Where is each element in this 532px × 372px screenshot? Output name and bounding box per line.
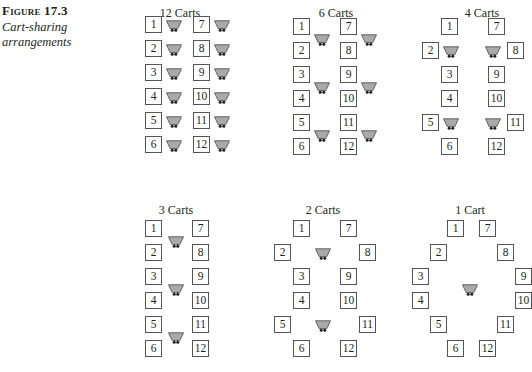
cart-icon [168, 282, 184, 294]
station-box: 12 [488, 138, 505, 155]
station-box: 4 [293, 292, 310, 309]
station-box: 6 [293, 340, 310, 357]
cart-icon [166, 90, 182, 102]
station-box: 5 [274, 316, 291, 333]
station-box: 7 [340, 18, 357, 35]
station-box: 10 [340, 90, 357, 107]
station-box: 4 [412, 292, 429, 309]
cart-icon [361, 128, 377, 140]
station-box: 6 [145, 340, 162, 357]
station-box: 12 [479, 340, 496, 357]
station-box: 11 [193, 112, 210, 129]
station-box: 6 [145, 136, 162, 153]
station-box: 5 [293, 114, 310, 131]
station-box: 8 [192, 244, 209, 261]
station-box: 9 [515, 268, 532, 285]
station-box: 11 [507, 114, 524, 131]
station-box: 9 [193, 64, 210, 81]
station-box: 11 [497, 316, 514, 333]
cart-icon [214, 114, 230, 126]
figure-caption: Cart-sharing arrangements [2, 20, 92, 50]
station-box: 1 [293, 220, 310, 237]
station-box: 5 [145, 112, 162, 129]
station-box: 6 [293, 138, 310, 155]
station-box: 3 [293, 268, 310, 285]
cart-icon [314, 80, 330, 92]
station-box: 10 [488, 90, 505, 107]
cart-icon [314, 32, 330, 44]
station-box: 6 [447, 340, 464, 357]
station-box: 10 [193, 88, 210, 105]
station-box: 4 [293, 90, 310, 107]
station-box: 1 [145, 220, 162, 237]
cart-icon [214, 66, 230, 78]
station-box: 1 [145, 16, 162, 33]
station-box: 10 [515, 292, 532, 309]
station-box: 4 [145, 292, 162, 309]
station-box: 2 [422, 42, 439, 59]
station-box: 1 [293, 18, 310, 35]
cart-icon [168, 234, 184, 246]
cart-icon [214, 138, 230, 150]
station-box: 8 [507, 42, 524, 59]
cart-icon [166, 138, 182, 150]
station-box: 6 [441, 138, 458, 155]
cart-icon [443, 116, 459, 128]
cart-icon [315, 318, 331, 330]
station-box: 2 [145, 244, 162, 261]
cart-icon [361, 80, 377, 92]
cart-icon [214, 18, 230, 30]
station-box: 8 [340, 42, 357, 59]
station-box: 12 [192, 340, 209, 357]
cart-icon [314, 128, 330, 140]
panel-title: 2 Carts [306, 203, 340, 218]
station-box: 2 [293, 42, 310, 59]
station-box: 7 [340, 220, 357, 237]
cart-icon [166, 66, 182, 78]
station-box: 11 [359, 316, 376, 333]
station-box: 10 [192, 292, 209, 309]
station-box: 12 [340, 138, 357, 155]
cart-icon [166, 18, 182, 30]
cart-icon [361, 32, 377, 44]
station-box: 8 [359, 244, 376, 261]
cart-icon [485, 44, 501, 56]
station-box: 12 [340, 340, 357, 357]
cart-icon [485, 116, 501, 128]
station-box: 1 [447, 220, 464, 237]
station-box: 2 [145, 40, 162, 57]
station-box: 2 [430, 244, 447, 261]
station-box: 4 [145, 88, 162, 105]
cart-icon [166, 42, 182, 54]
station-box: 7 [192, 220, 209, 237]
station-box: 5 [430, 316, 447, 333]
station-box: 1 [441, 18, 458, 35]
station-box: 7 [488, 18, 505, 35]
station-box: 3 [145, 268, 162, 285]
panel-title: 1 Cart [455, 203, 485, 218]
station-box: 9 [340, 66, 357, 83]
station-box: 5 [422, 114, 439, 131]
station-box: 3 [145, 64, 162, 81]
station-box: 3 [441, 66, 458, 83]
station-box: 8 [497, 244, 514, 261]
panel-title: 3 Carts [159, 203, 193, 218]
station-box: 4 [441, 90, 458, 107]
station-box: 10 [340, 292, 357, 309]
station-box: 9 [488, 66, 505, 83]
station-box: 2 [274, 244, 291, 261]
cart-icon [166, 114, 182, 126]
station-box: 9 [340, 268, 357, 285]
station-box: 12 [193, 136, 210, 153]
station-box: 8 [193, 40, 210, 57]
station-box: 5 [145, 316, 162, 333]
station-box: 3 [293, 66, 310, 83]
cart-icon [315, 246, 331, 258]
cart-icon [443, 44, 459, 56]
station-box: 11 [340, 114, 357, 131]
cart-icon [462, 282, 478, 294]
station-box: 11 [192, 316, 209, 333]
station-box: 3 [412, 268, 429, 285]
cart-icon [168, 330, 184, 342]
station-box: 7 [479, 220, 496, 237]
